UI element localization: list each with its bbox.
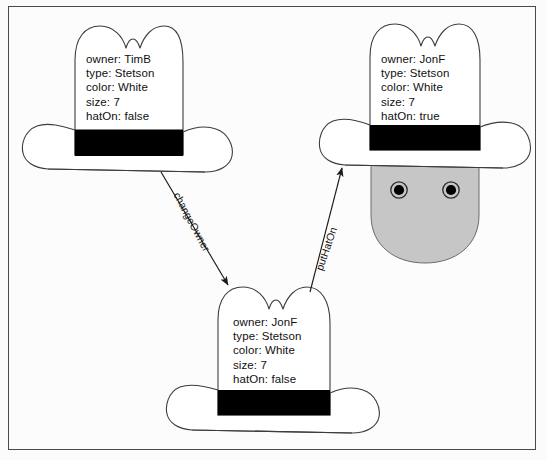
hat-band	[218, 390, 330, 415]
diagram-canvas: owner: TimB type: Stetson color: White s…	[0, 0, 547, 460]
diagram-graphics	[0, 0, 547, 460]
hat-attributes-jon-worn: owner: JonF type: Stetson color: White s…	[381, 52, 449, 123]
left-eye-icon	[391, 182, 407, 198]
hat-attributes-jon-off: owner: JonF type: Stetson color: White s…	[233, 315, 301, 386]
hat-band	[370, 125, 480, 150]
hat-attributes-tim: owner: TimB type: Stetson color: White s…	[86, 52, 154, 123]
right-eye-icon	[443, 182, 459, 198]
hat-band	[75, 130, 183, 156]
